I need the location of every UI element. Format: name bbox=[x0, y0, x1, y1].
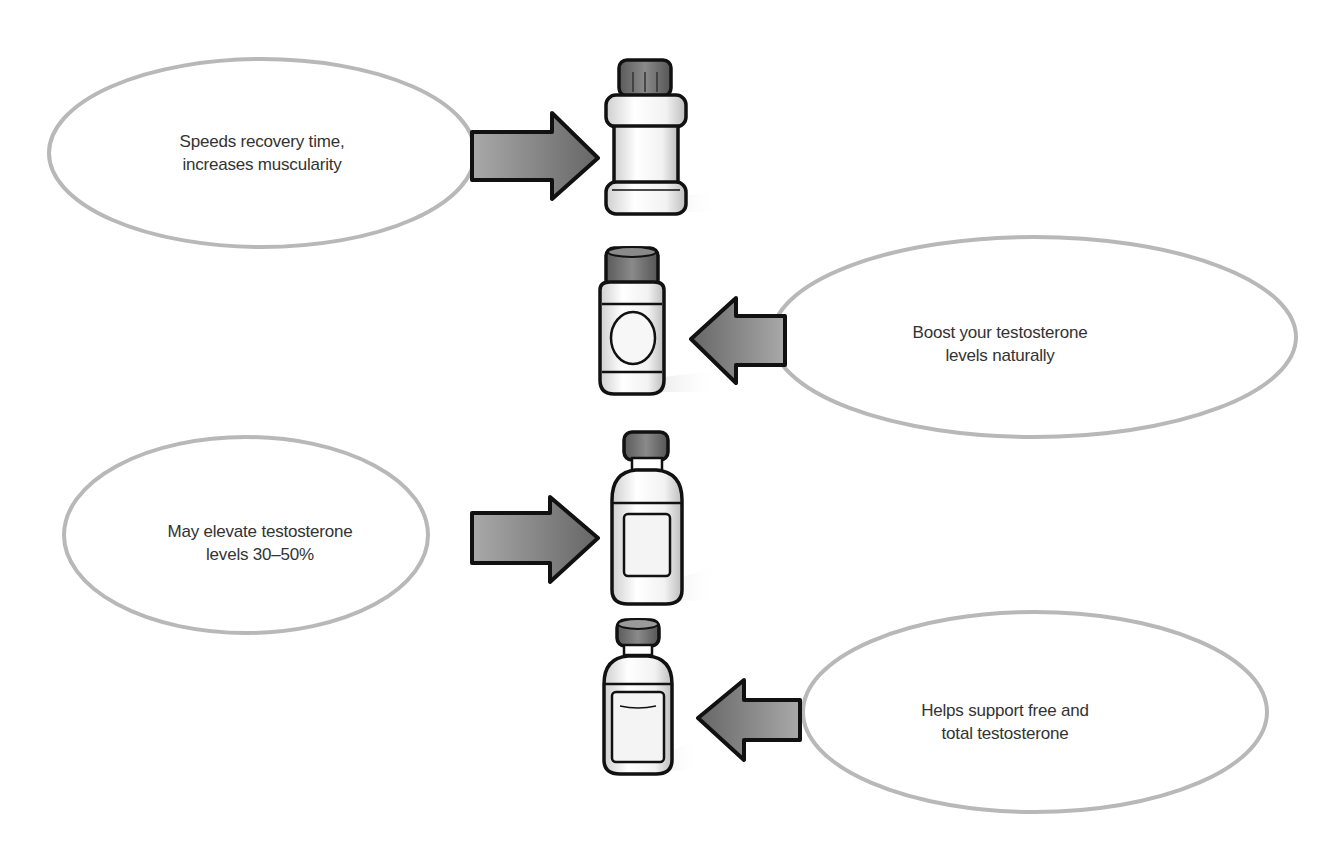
pill-jar-bottle-icon bbox=[600, 247, 720, 394]
claim-text-1: Speeds recovery time, increases muscular… bbox=[132, 130, 392, 176]
claim-text-2: Boost your testosterone levels naturally bbox=[870, 321, 1130, 367]
arrow-left-icon bbox=[691, 298, 785, 383]
claim-text-4: Helps support free and total testosteron… bbox=[885, 699, 1125, 745]
claim-line: total testosterone bbox=[885, 722, 1125, 745]
small-vial-bottle-icon bbox=[604, 619, 700, 774]
claim-text-3: May elevate testosterone levels 30–50% bbox=[140, 520, 380, 566]
claim-line: Speeds recovery time, bbox=[132, 130, 392, 153]
claim-line: levels naturally bbox=[870, 344, 1130, 367]
arrow-left-icon bbox=[698, 680, 800, 760]
claim-line: Boost your testosterone bbox=[870, 321, 1130, 344]
claim-line: May elevate testosterone bbox=[140, 520, 380, 543]
claim-line: increases muscularity bbox=[132, 153, 392, 176]
claim-line: levels 30–50% bbox=[140, 543, 380, 566]
claim-line: Helps support free and bbox=[885, 699, 1125, 722]
wide-jar-bottle-icon bbox=[606, 60, 720, 214]
arrow-right-icon bbox=[472, 497, 598, 582]
labeled-bottle-icon bbox=[612, 432, 720, 604]
arrow-right-icon bbox=[472, 113, 598, 199]
